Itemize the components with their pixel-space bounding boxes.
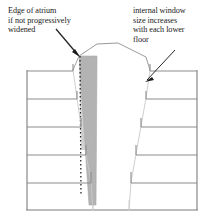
- left-floor-2: [27, 91, 77, 99]
- left-floor-3: [27, 118, 81, 127]
- right-floor-4: [136, 145, 197, 155]
- building-envelope: [26, 70, 198, 210]
- right-floor-5: [131, 172, 197, 183]
- base-construction-ticks: [93, 200, 129, 211]
- left-floor-1: [27, 64, 73, 71]
- internal-window-note: internal window size increases with each…: [133, 6, 221, 44]
- right-floor-plates: [131, 64, 197, 183]
- roof-left-eave: [73, 56, 79, 70]
- left-floor-4: [27, 145, 86, 155]
- figure-canvas: Edge of atrium if not progressively wide…: [0, 0, 224, 224]
- edge-of-atrium-note: Edge of atrium if not progressively wide…: [8, 6, 102, 35]
- right-floor-2: [146, 91, 197, 99]
- right-floor-3: [141, 118, 197, 127]
